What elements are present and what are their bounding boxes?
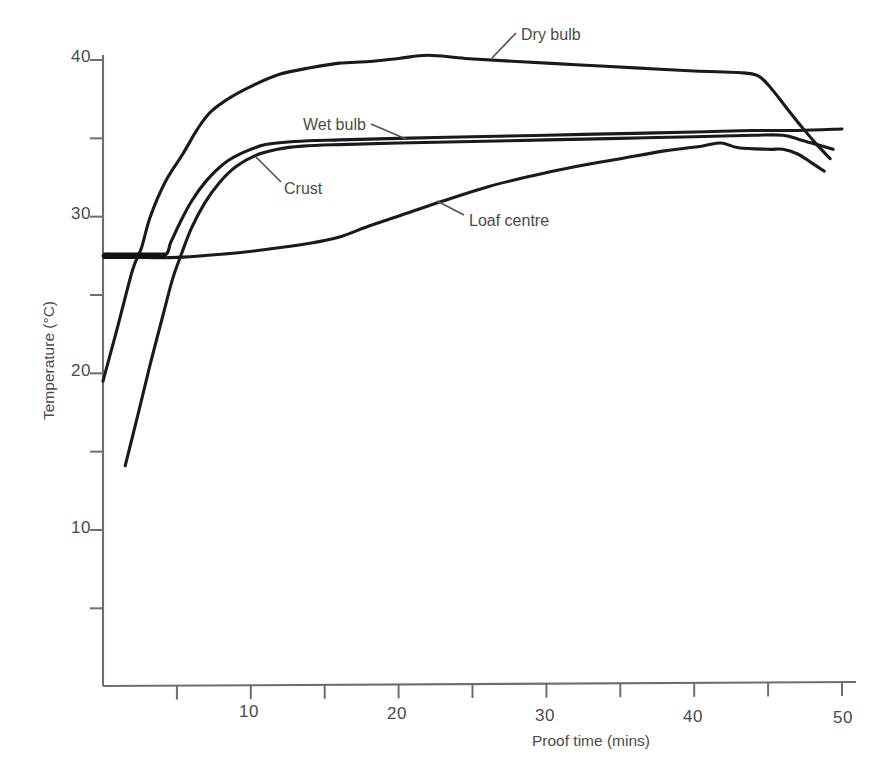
series-label-wet-bulb: Wet bulb xyxy=(303,116,366,134)
x-tick-label-50: 50 xyxy=(833,708,853,728)
x-tick-label-10: 10 xyxy=(239,702,259,722)
series-line-crust xyxy=(125,135,833,466)
leader-line-wet-bulb xyxy=(371,124,406,139)
chart-plot-area xyxy=(0,0,879,776)
x-axis-title: Proof time (mins) xyxy=(532,732,650,750)
series-label-crust: Crust xyxy=(284,180,322,198)
y-tick-label-40: 40 xyxy=(71,47,91,67)
chart-container: 40 30 20 10 10 20 30 40 50 Proof time (m… xyxy=(0,0,879,776)
series-label-dry-bulb: Dry bulb xyxy=(521,26,581,44)
series-line-dry-bulb xyxy=(103,55,830,381)
y-axis-ticks xyxy=(90,60,103,608)
x-tick-label-30: 30 xyxy=(535,706,555,726)
series-label-loaf-centre: Loaf centre xyxy=(469,212,549,230)
x-tick-label-40: 40 xyxy=(683,707,703,727)
x-tick-label-20: 20 xyxy=(387,704,407,724)
x-axis-line xyxy=(103,682,856,686)
y-tick-label-10: 10 xyxy=(71,518,91,538)
y-tick-label-30: 30 xyxy=(71,204,91,224)
y-axis-title: Temperature (°C) xyxy=(40,301,58,420)
data-series-layer xyxy=(103,55,842,465)
leader-line-crust xyxy=(256,157,281,182)
leader-line-loaf-centre xyxy=(437,201,464,215)
y-tick-label-20: 20 xyxy=(71,361,91,381)
leader-line-dry-bulb xyxy=(492,33,516,58)
series-line-loaf-centre xyxy=(107,143,824,258)
